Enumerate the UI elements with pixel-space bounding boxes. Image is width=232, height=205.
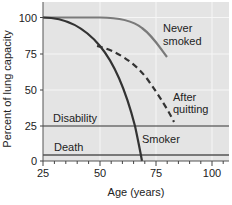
y-axis-title: Percent of lung capacity [1,30,13,148]
annotation-after-quitting-line2: quitting [173,103,208,115]
y-tick-label-75: 75 [25,48,37,60]
annotation-never-smoked-line1: Never [163,22,193,34]
y-tick-label-0: 0 [31,155,37,167]
lung-capacity-chart: 100 75 50 25 0 25 50 75 100 Age (years) … [0,0,232,205]
x-tick-label-75: 75 [150,167,162,179]
annotation-disability: Disability [53,112,98,124]
x-tick-label-25: 25 [37,167,49,179]
y-tick-label-50: 50 [25,84,37,96]
annotation-never-smoked-line2: smoked [163,35,202,47]
y-tick-label-25: 25 [25,120,37,132]
annotation-death: Death [54,141,83,153]
x-tick-label-50: 50 [94,167,106,179]
x-axis-title: Age (years) [108,186,165,198]
plot-area [43,2,229,161]
annotation-smoker: Smoker [142,133,180,145]
annotation-after-quitting-line1: After [173,91,197,103]
x-tick-label-100: 100 [203,167,221,179]
y-tick-label-100: 100 [19,12,37,24]
x-ticks [43,161,223,166]
